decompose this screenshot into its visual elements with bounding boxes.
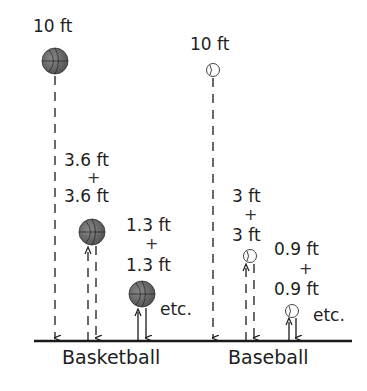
basketball-caption: Basketball bbox=[62, 346, 160, 368]
plus-sign: + bbox=[87, 170, 100, 186]
basketball-bounce1-down: 3.6 ft bbox=[64, 187, 109, 205]
basketball-bounce2-down: 1.3 ft bbox=[126, 256, 171, 274]
plus-sign: + bbox=[244, 207, 257, 223]
baseball-bounce2-up: 0.9 ft bbox=[274, 240, 319, 258]
plus-sign: + bbox=[145, 236, 158, 252]
baseball-etc: etc. bbox=[313, 306, 345, 324]
baseball-icon bbox=[244, 250, 257, 263]
baseball-bounce1-down: 3 ft bbox=[232, 226, 261, 244]
basketball-icon bbox=[79, 219, 105, 245]
basketball-etc: etc. bbox=[160, 300, 192, 318]
basketball-bounce2-up: 1.3 ft bbox=[126, 216, 171, 234]
baseball-drop-height: 10 ft bbox=[190, 35, 229, 53]
plus-sign: + bbox=[299, 261, 312, 277]
baseball-caption: Baseball bbox=[228, 346, 309, 368]
baseball-icon bbox=[207, 64, 220, 77]
baseball-bounce2-down: 0.9 ft bbox=[274, 280, 319, 298]
bounce-diagram bbox=[0, 0, 367, 391]
basketball-drop-height: 10 ft bbox=[33, 17, 72, 35]
basketball-bounce1-up: 3.6 ft bbox=[64, 151, 109, 169]
baseball-bounce1-up: 3 ft bbox=[232, 187, 261, 205]
baseball-icon bbox=[286, 305, 299, 318]
basketball-icon bbox=[129, 281, 155, 307]
basketball-icon bbox=[42, 48, 68, 74]
